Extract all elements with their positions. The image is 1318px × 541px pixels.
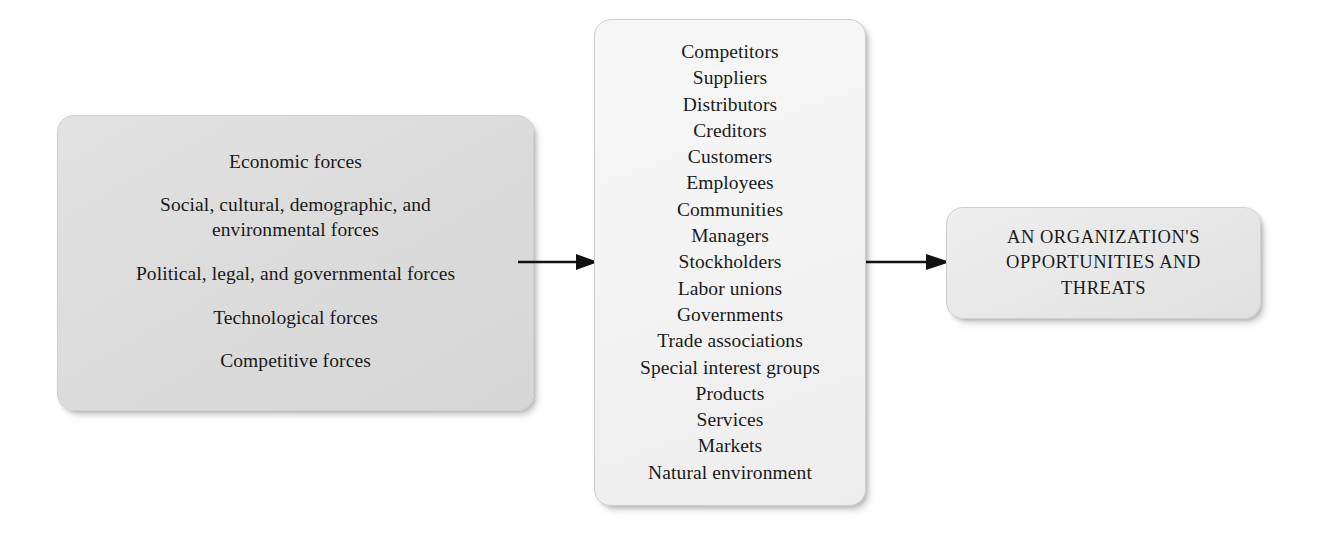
outcome-line: OPPORTUNITIES AND <box>1006 250 1201 276</box>
list-item: Services <box>605 407 855 433</box>
diagram-canvas: Economic forces Social, cultural, demogr… <box>0 0 1318 541</box>
list-item: Customers <box>605 144 855 170</box>
force-item: Competitive forces <box>80 348 511 373</box>
list-item: Natural environment <box>605 460 855 486</box>
list-item: Products <box>605 381 855 407</box>
external-forces-box: Economic forces Social, cultural, demogr… <box>57 115 534 411</box>
list-item: Trade associations <box>605 328 855 354</box>
force-item: Political, legal, and governmental force… <box>80 261 511 286</box>
list-item: Employees <box>605 170 855 196</box>
list-item: Managers <box>605 223 855 249</box>
arrow-right-icon <box>518 251 598 273</box>
list-item: Markets <box>605 433 855 459</box>
force-item: Social, cultural, demographic, and envir… <box>80 192 511 242</box>
list-item: Distributors <box>605 92 855 118</box>
list-item: Stockholders <box>605 249 855 275</box>
stakeholders-box: Competitors Suppliers Distributors Credi… <box>594 19 866 506</box>
list-item: Labor unions <box>605 276 855 302</box>
opportunities-and-threats-box: AN ORGANIZATION'S OPPORTUNITIES AND THRE… <box>946 207 1261 319</box>
list-item: Communities <box>605 197 855 223</box>
list-item: Special interest groups <box>605 355 855 381</box>
force-item: Technological forces <box>80 305 511 330</box>
list-item: Suppliers <box>605 65 855 91</box>
outcome-line: AN ORGANIZATION'S <box>1007 225 1200 251</box>
list-item: Governments <box>605 302 855 328</box>
outcome-line: THREATS <box>1061 276 1146 302</box>
list-item: Competitors <box>605 39 855 65</box>
force-item: Economic forces <box>80 149 511 174</box>
stakeholders-list: Competitors Suppliers Distributors Credi… <box>605 39 855 486</box>
list-item: Creditors <box>605 118 855 144</box>
arrow-right-icon <box>866 251 950 273</box>
